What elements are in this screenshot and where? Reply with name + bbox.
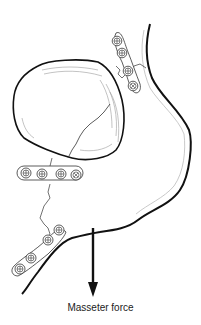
masseter-force-label: Masseter force bbox=[0, 302, 201, 313]
ramus-inner-contour bbox=[136, 30, 185, 214]
masseter-force-arrow bbox=[88, 228, 98, 297]
plate-middle bbox=[17, 166, 83, 180]
tooth-outline bbox=[13, 60, 124, 160]
plate-inferior-border bbox=[12, 225, 66, 276]
mandible-illustration bbox=[0, 0, 201, 325]
